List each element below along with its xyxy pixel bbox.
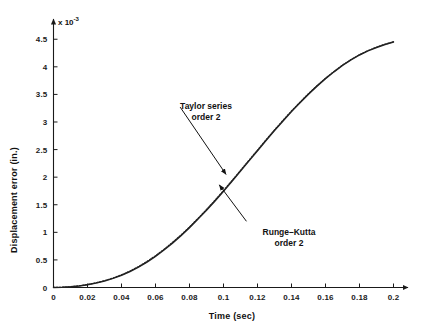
x-axis-tick-label: 0.1	[218, 293, 230, 302]
annotation-taylor-series-line1: Taylor series	[180, 101, 232, 112]
annotation-arrows	[180, 107, 246, 221]
y-axis-tick-label: 4.5	[0, 35, 48, 44]
y-axis-tick-label: 1	[0, 228, 48, 237]
annotation-runge-kutta-line2: order 2	[263, 238, 316, 249]
x-axis-tick-label: 0.06	[147, 293, 163, 302]
x-axis-tick-label: 0.08	[181, 293, 197, 302]
data-series-group	[54, 42, 394, 288]
y-axis-tick-label: 3	[0, 117, 48, 126]
y-axis-multiplier: x 10-3	[58, 16, 79, 27]
y-axis-multiplier-exponent: -3	[74, 16, 79, 22]
y-axis-tick-label: 0.5	[0, 255, 48, 264]
y-axis-tick-label: 2	[0, 173, 48, 182]
annotation-runge-kutta: Runge–Kutta order 2	[263, 227, 316, 249]
x-axis-tick-label: 0.18	[351, 293, 367, 302]
series-line	[54, 42, 394, 288]
plot-area	[0, 0, 425, 330]
x-axis-tick-label: 0.2	[388, 293, 400, 302]
y-axis-title: Displacement error (in.)	[9, 147, 19, 253]
annotation-arrow-runge-kutta	[219, 185, 246, 221]
chart-figure: x 10-3 00.020.040.060.080.10.120.140.160…	[0, 0, 425, 330]
y-axis-tick-label: 4	[0, 62, 48, 71]
annotation-taylor-series-line2: order 2	[180, 112, 232, 123]
x-axis-title: Time (sec)	[209, 311, 255, 321]
y-axis-ticks	[54, 39, 58, 287]
y-axis-tick-label: 2.5	[0, 145, 48, 154]
x-axis-tick-label: 0.02	[79, 293, 95, 302]
annotation-runge-kutta-line1: Runge–Kutta	[263, 227, 316, 238]
y-axis-tick-label: 0	[0, 283, 48, 292]
y-axis-multiplier-text: x 10	[58, 18, 74, 27]
x-axis-tick-label: 0.16	[317, 293, 333, 302]
series-line	[54, 42, 394, 288]
x-axis-tick-label: 0	[51, 293, 56, 302]
x-axis-ticks	[54, 284, 394, 288]
x-axis-tick-label: 0.04	[113, 293, 129, 302]
annotation-taylor-series: Taylor series order 2	[180, 101, 232, 123]
y-axis-tick-label: 3.5	[0, 90, 48, 99]
x-axis-tick-label: 0.14	[283, 293, 299, 302]
x-axis-tick-label: 0.12	[249, 293, 265, 302]
y-axis-tick-label: 1.5	[0, 200, 48, 209]
